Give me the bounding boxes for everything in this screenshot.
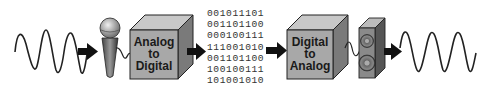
binary-row: 000100111 xyxy=(207,30,264,41)
input-sine-wave xyxy=(15,30,88,73)
microphone-icon xyxy=(100,18,131,78)
speaker-icon xyxy=(359,18,385,78)
adc-label-line: Digital xyxy=(130,60,178,72)
binary-row: 101001010 xyxy=(207,75,264,86)
binary-row: 111001010 xyxy=(207,42,264,53)
binary-row: 001101100 xyxy=(207,53,264,64)
dac-label-line: Analog xyxy=(287,60,333,72)
arrow-icon xyxy=(78,43,98,60)
arrow-icon xyxy=(266,42,287,59)
binary-row: 001011101 xyxy=(207,8,264,19)
dac-label: Digital to Analog xyxy=(287,36,333,72)
binary-data: 001011101 001101100 000100111 111001010 … xyxy=(207,8,264,86)
output-sine-wave xyxy=(400,32,476,71)
binary-row: 001101100 xyxy=(207,19,264,30)
conversion-diagram: Analog to Digital 001011101 001101100 00… xyxy=(0,0,478,94)
arrow-icon xyxy=(384,43,402,60)
adc-label: Analog to Digital xyxy=(130,36,178,72)
binary-row: 100100111 xyxy=(207,64,264,75)
